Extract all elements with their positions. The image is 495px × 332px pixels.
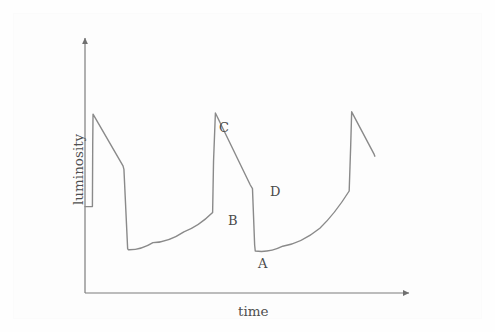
x-axis-label: time	[238, 303, 269, 319]
y-axis-label: luminosity	[70, 134, 86, 205]
point-label-b: B	[228, 214, 238, 227]
light-curve-figure: C B D A time luminosity	[0, 0, 495, 332]
luminosity-curve	[85, 112, 375, 252]
point-label-c: C	[219, 121, 229, 134]
point-label-d: D	[270, 185, 280, 198]
point-label-a: A	[258, 257, 267, 270]
